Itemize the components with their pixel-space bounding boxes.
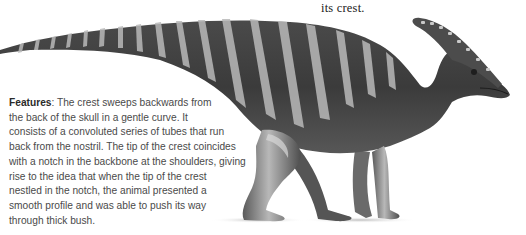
- far-front-leg: [353, 150, 372, 218]
- features-line-3: consists of a convoluted series of tubes…: [9, 125, 259, 140]
- features-line-6: rise to the idea that when the tip of th…: [9, 170, 259, 185]
- features-line-5: with a notch in the backbone at the shou…: [9, 155, 259, 170]
- features-line-9: through thick bush.: [9, 214, 259, 229]
- features-line-4: back from the nostril. The tip of the cr…: [9, 140, 259, 155]
- features-description: Features: The crest sweeps backwards fro…: [9, 96, 259, 228]
- features-line-7: nestled in the notch, the animal present…: [9, 184, 259, 199]
- eye: [471, 69, 477, 75]
- features-line-1: Features: The crest sweeps backwards fro…: [9, 96, 259, 111]
- near-front-leg: [372, 146, 400, 219]
- features-line-1-text: The crest sweeps backwards from: [57, 97, 212, 108]
- features-line-2: the back of the skull in a gentle curve.…: [9, 111, 259, 126]
- features-term: Features: [9, 97, 51, 108]
- features-line-8: smooth profile and was able to push its …: [9, 199, 259, 214]
